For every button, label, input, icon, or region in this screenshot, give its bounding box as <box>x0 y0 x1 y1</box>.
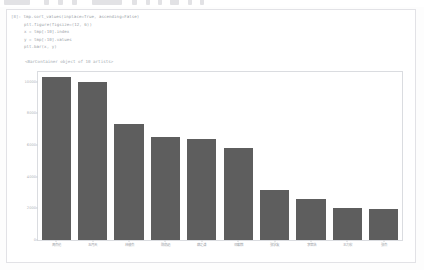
menu-block[interactable] <box>4 0 30 5</box>
x-tick-label: 薛之谦 <box>197 243 206 248</box>
x-tick-label: 邓紫棋 <box>234 243 243 248</box>
x-tick-label: 五月天 <box>88 243 97 248</box>
tool-9[interactable] <box>188 0 192 5</box>
bar <box>42 77 71 240</box>
y-tick-mark <box>36 176 38 177</box>
bar <box>260 190 289 240</box>
y-tick-mark <box>36 113 38 114</box>
tool-4[interactable] <box>92 0 122 5</box>
y-tick-label: 0 <box>34 238 36 242</box>
y-tick-mark <box>36 208 38 209</box>
x-tick-mark <box>201 240 202 242</box>
figure-output: <BarContainer object of 10 artists> 0200… <box>11 57 411 260</box>
x-tick-mark <box>129 240 130 242</box>
x-tick-label: 陈奕迅 <box>161 243 170 248</box>
y-tick-label: 2000 <box>27 206 36 210</box>
x-tick-mark <box>347 240 348 242</box>
x-tick-mark <box>92 240 93 242</box>
y-tick-label: 4000 <box>27 175 36 179</box>
tool-1[interactable] <box>44 0 49 5</box>
clipped-toolbar-strip <box>0 0 424 7</box>
tool-7[interactable] <box>158 0 162 5</box>
cell-prompt: [8]: <box>11 14 24 19</box>
y-tick-mark <box>36 240 38 241</box>
tool-6[interactable] <box>146 0 150 5</box>
tool-2[interactable] <box>58 0 63 5</box>
y-tick-mark <box>36 144 38 145</box>
code-line-5[interactable]: plt.bar(x, y) <box>11 43 57 50</box>
bar <box>369 209 398 240</box>
tool-10[interactable] <box>200 0 204 5</box>
tool-5[interactable] <box>132 0 137 5</box>
y-tick-label: 10000 <box>25 80 36 84</box>
x-tick-label: 张杰 <box>381 243 387 248</box>
code-text: tmp.sort_values(inplace=True, ascending=… <box>24 14 140 19</box>
x-tick-mark <box>274 240 275 242</box>
x-tick-label: 王力宏 <box>343 243 352 248</box>
y-tick-label: 8000 <box>27 111 36 115</box>
chart-plot-area: 0200040006000800010000周杰伦五月天林俊杰陈奕迅薛之谦邓紫棋… <box>38 72 402 240</box>
tool-3[interactable] <box>72 0 77 5</box>
bar <box>114 124 143 240</box>
x-tick-mark <box>165 240 166 242</box>
code-line-4[interactable]: y = tmp[:10].values <box>11 36 72 43</box>
bar <box>296 199 325 240</box>
notebook-cell[interactable]: [8]: tmp.sort_values(inplace=True, ascen… <box>6 9 416 263</box>
screenshot-root: [8]: tmp.sort_values(inplace=True, ascen… <box>0 0 424 270</box>
x-tick-label: 林俊杰 <box>125 243 134 248</box>
bar <box>224 148 253 240</box>
code-editor[interactable]: [8]: tmp.sort_values(inplace=True, ascen… <box>11 13 411 57</box>
y-tick-label: 6000 <box>27 143 36 147</box>
bar-container-repr: <BarContainer object of 10 artists> <box>25 58 113 66</box>
bar <box>151 137 180 240</box>
x-tick-mark <box>383 240 384 242</box>
x-tick-label: 张学友 <box>270 243 279 248</box>
bar <box>78 82 107 240</box>
tool-8[interactable] <box>170 0 179 5</box>
x-tick-label: 李荣浩 <box>307 243 316 248</box>
y-tick-mark <box>36 81 38 82</box>
x-tick-mark <box>311 240 312 242</box>
bar <box>333 208 362 240</box>
x-tick-label: 周杰伦 <box>52 243 61 248</box>
x-tick-mark <box>56 240 57 242</box>
bar <box>187 139 216 240</box>
x-tick-mark <box>238 240 239 242</box>
code-line-3[interactable]: x = tmp[:10].index <box>11 28 69 35</box>
code-line-1[interactable]: [8]: tmp.sort_values(inplace=True, ascen… <box>11 13 139 20</box>
code-line-2[interactable]: plt.figure(figsize=(12, 6)) <box>11 21 92 28</box>
